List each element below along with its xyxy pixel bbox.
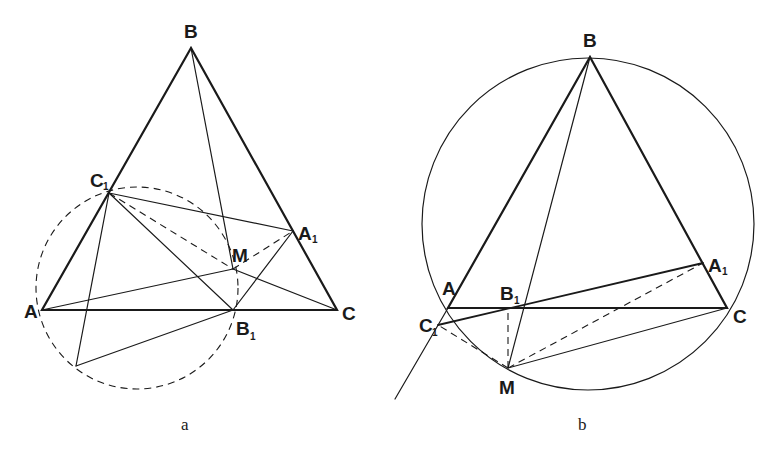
figure-a: B C 1 A 1 M A B 1 C a: [24, 21, 356, 434]
figure-a-label-a1-sub: 1: [312, 234, 318, 245]
figure-a-line-b-m: [191, 48, 233, 269]
figure-a-line-c1-b1: [109, 193, 233, 310]
figure-a-dashed-c1-m: [109, 193, 233, 269]
figure-b-label-c: C: [733, 306, 747, 327]
figure-a-dashed-circle: [36, 187, 238, 389]
figure-b-label-c1-sub: 1: [432, 327, 438, 338]
figure-b-label-a1-sub: 1: [722, 266, 728, 277]
figure-b-simson-line: [438, 263, 703, 325]
figure-a-line-c1-a1: [109, 193, 293, 231]
figure-b-label-b1: B: [500, 283, 514, 304]
figure-a-line-a1-b1: [233, 231, 293, 310]
figure-a-label-c: C: [342, 303, 356, 324]
figure-b-triangle-abc: [448, 57, 727, 308]
figure-b-dashed-m-a1: [508, 263, 703, 368]
figure-b-label-c1: C: [419, 315, 433, 336]
figure-a-label-b: B: [184, 21, 198, 42]
figure-a-label-b1-sub: 1: [250, 331, 256, 342]
figure-a-label-m: M: [232, 245, 248, 266]
figure-a-line-a-m: [42, 269, 233, 310]
geometry-figures: B C 1 A 1 M A B 1 C a B A 1 A: [0, 0, 773, 452]
figure-b-caption: b: [578, 415, 587, 434]
figure-a-label-c1-sub: 1: [103, 181, 109, 192]
figure-b: B A 1 A B 1 C 1 C M b: [395, 30, 754, 434]
figure-b-label-b: B: [583, 30, 597, 51]
figure-a-label-a: A: [24, 301, 38, 322]
figure-a-label-a1: A: [298, 223, 312, 244]
figure-b-dashed-m-c1: [438, 325, 508, 368]
figure-b-label-b1-sub: 1: [514, 295, 520, 306]
figure-b-label-a: A: [442, 278, 456, 299]
figure-a-label-b1: B: [236, 318, 250, 339]
figure-a-caption: a: [181, 415, 189, 434]
figure-b-label-a1: A: [708, 255, 722, 276]
figure-b-line-b-m: [508, 57, 590, 368]
figure-b-line-m-c: [508, 308, 727, 368]
figure-b-label-m: M: [499, 377, 515, 398]
figure-a-label-c1: C: [90, 170, 104, 191]
figure-b-circumcircle: [422, 58, 754, 390]
figure-a-line-c1-p: [76, 193, 109, 366]
figure-a-triangle-abc: [42, 48, 337, 310]
